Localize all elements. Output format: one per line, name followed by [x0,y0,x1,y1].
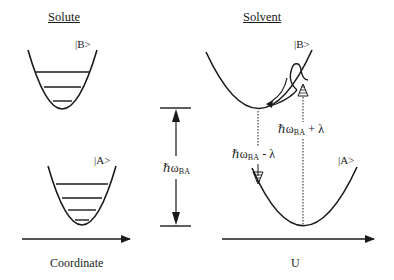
solvent-lower-curve [252,167,357,226]
solute-upper-well [28,50,97,109]
emission-energy-label: ℏωBA - λ [232,148,275,164]
coordinate-axis-label: Coordinate [50,257,103,269]
absorption-energy-label: ℏωBA + λ [278,123,324,139]
solute-upper-state-label: |B> [75,38,91,50]
solvent-upper-state-label: |B> [294,38,310,50]
solute-lower-state-label: |A> [94,154,110,166]
energy-gap-label: ℏωBA [163,161,190,179]
hbar-omega: ℏω [163,161,179,175]
u-axis-label: U [291,257,300,269]
absorption-packet-icon [298,84,308,96]
solvent-title: Solvent [243,11,281,23]
hbar-omega: ℏω [278,122,294,136]
subscript: BA [248,153,260,162]
subscript: BA [179,167,191,176]
solute-title: Solute [48,11,80,23]
suffix: - λ [259,147,275,161]
subscript: BA [294,128,306,137]
solvent-upper-curve [206,50,312,109]
suffix: + λ [305,122,324,136]
energy-diagram [0,0,394,280]
hbar-omega: ℏω [232,147,248,161]
solute-lower-well [48,166,116,225]
solvent-lower-state-label: |A> [338,154,354,166]
